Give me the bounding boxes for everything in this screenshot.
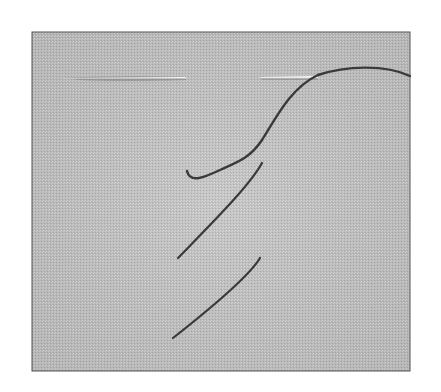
fabric-shading (32, 32, 410, 371)
fabric-photo (0, 0, 441, 392)
